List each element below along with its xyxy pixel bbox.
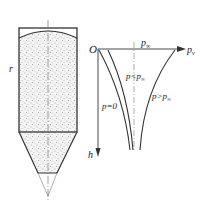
silo-pressure-diagram: r O p∞ pv h p=0 p<p∞ p>p∞ bbox=[0, 0, 204, 208]
x-axis-label: pv bbox=[186, 44, 195, 56]
label-p-zero: p=0 bbox=[101, 101, 118, 111]
label-r: r bbox=[9, 63, 13, 74]
label-p-greater: p>p∞ bbox=[151, 91, 171, 102]
x-axis-arrow-icon bbox=[177, 46, 186, 52]
label-p-less: p<p∞ bbox=[125, 71, 145, 82]
y-axis-label: h bbox=[88, 149, 93, 160]
hopper-apex-projection bbox=[38, 173, 57, 196]
silo: r bbox=[9, 20, 77, 200]
y-axis-arrow-icon bbox=[96, 148, 101, 157]
origin-label: O bbox=[89, 43, 97, 55]
curve-p-less bbox=[108, 50, 133, 150]
asymptote-label: p∞ bbox=[140, 37, 151, 49]
pressure-diagram: O p∞ pv h p=0 p<p∞ p>p∞ bbox=[88, 37, 195, 160]
